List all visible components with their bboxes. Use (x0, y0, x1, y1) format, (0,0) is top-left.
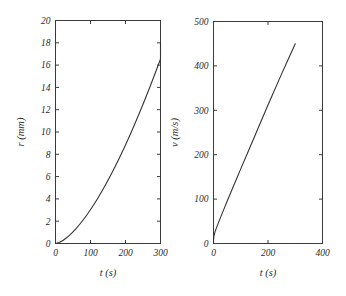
y-ticklabel-left-8: 16 (41, 60, 51, 70)
y-ticklabel-left-7: 14 (41, 83, 51, 93)
y-ticklabel-left-0: 0 (46, 239, 51, 249)
y-ticklabel-left-9: 18 (41, 38, 51, 48)
dual-line-chart: 024681012141618200100200300t (s)r (mm)01… (0, 0, 346, 296)
y-ticklabel-left-4: 8 (46, 150, 51, 160)
panel-right: 01002003004005000200400t (s)v (m/s) (169, 17, 330, 279)
x-ticklabel-left-0: 0 (53, 248, 58, 258)
x-axis-label-right: t (s) (260, 267, 277, 279)
y-axis-label-right: v (m/s) (169, 118, 181, 147)
plot-frame-left (56, 21, 161, 244)
data-curve-left (56, 43, 161, 244)
y-ticklabel-left-10: 20 (41, 16, 51, 26)
x-ticklabel-left-1: 100 (83, 248, 98, 258)
y-ticklabel-left-6: 12 (41, 105, 51, 115)
y-axis-label-left: r (mm) (15, 117, 27, 146)
y-ticklabel-right-4: 400 (194, 61, 209, 71)
y-ticklabel-left-5: 10 (41, 127, 51, 137)
y-ticklabel-left-2: 4 (46, 194, 51, 204)
x-ticklabel-right-1: 200 (261, 248, 276, 258)
x-ticklabel-right-0: 0 (211, 248, 216, 258)
figure-container: 024681012141618200100200300t (s)r (mm)01… (0, 0, 346, 296)
y-ticklabel-left-1: 2 (46, 217, 51, 227)
data-curve-right (213, 44, 295, 244)
y-ticklabel-right-0: 0 (204, 239, 209, 249)
panel-left: 024681012141618200100200300t (s)r (mm) (15, 16, 168, 279)
x-axis-label-left: t (s) (100, 267, 117, 279)
x-ticklabel-left-2: 200 (118, 248, 133, 258)
x-ticklabel-right-2: 400 (315, 248, 330, 258)
plot-frame-right (214, 22, 323, 244)
y-ticklabel-right-5: 500 (194, 17, 209, 27)
y-ticklabel-left-3: 6 (46, 172, 51, 182)
y-ticklabel-right-2: 200 (194, 150, 209, 160)
y-ticklabel-right-1: 100 (194, 194, 209, 204)
x-ticklabel-left-3: 300 (152, 248, 168, 258)
y-ticklabel-right-3: 300 (193, 106, 209, 116)
